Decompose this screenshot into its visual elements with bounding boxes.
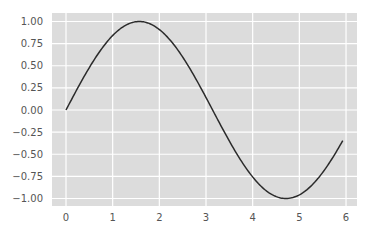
y-tick-label: 0.00 — [21, 105, 43, 116]
y-tick-label: −0.25 — [12, 127, 43, 138]
x-axis-tick-labels: 0123456 — [63, 212, 349, 223]
x-tick-label: 5 — [296, 212, 302, 223]
y-tick-label: 0.50 — [21, 60, 43, 71]
x-tick-label: 0 — [63, 212, 69, 223]
x-tick-label: 2 — [156, 212, 162, 223]
y-axis-tick-labels: 1.000.750.500.250.00−0.25−0.50−0.75−1.00 — [12, 16, 43, 204]
y-tick-label: −0.75 — [12, 171, 43, 182]
x-tick-label: 1 — [109, 212, 115, 223]
y-tick-label: −0.50 — [12, 149, 43, 160]
y-tick-label: 1.00 — [21, 16, 43, 27]
y-tick-label: 0.75 — [21, 38, 43, 49]
line-chart: 0123456 1.000.750.500.250.00−0.25−0.50−0… — [0, 0, 376, 236]
x-tick-label: 3 — [203, 212, 209, 223]
x-tick-label: 4 — [249, 212, 255, 223]
y-tick-label: −1.00 — [12, 193, 43, 204]
y-tick-label: 0.25 — [21, 82, 43, 93]
x-tick-label: 6 — [343, 212, 349, 223]
